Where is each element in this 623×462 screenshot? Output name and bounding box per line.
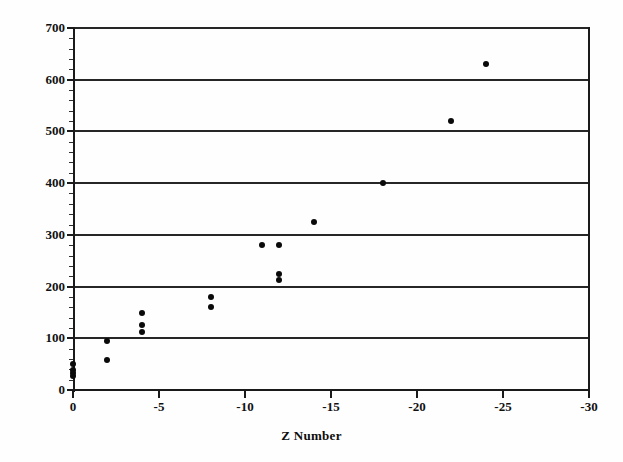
scatter-plot-figure: 0100200300400500600700 0-5-10-15-20-25-3… [0,0,623,462]
x-tick--15 [330,391,332,398]
x-axis-tick-label: -5 [139,400,179,413]
data-point [70,373,76,379]
x-tick--5 [158,391,160,398]
x-axis-tick-label: -15 [311,400,351,413]
data-point [104,357,110,363]
data-point [276,242,282,248]
data-point [311,219,317,225]
x-tick--30 [588,391,590,398]
y-axis-tick-label: 400 [21,176,65,189]
x-tick--20 [416,391,418,398]
x-axis-tick-label: -30 [569,400,609,413]
data-point [483,61,489,67]
data-point [276,277,282,283]
y-axis-tick-label: 600 [21,73,65,86]
data-point [208,304,214,310]
x-axis-tick-label: 0 [53,400,93,413]
x-axis-tick-label: -10 [225,400,265,413]
data-point [380,180,386,186]
y-axis-tick-label: 200 [21,280,65,293]
x-axis-title: Z Number [0,428,623,444]
x-tick-0 [72,391,74,398]
y-axis-tick-label: 0 [21,383,65,396]
data-point [208,294,214,300]
data-point [139,310,145,316]
x-tick--10 [244,391,246,398]
data-point [70,361,76,367]
y-axis-tick-label: 700 [21,21,65,34]
data-point [448,118,454,124]
data-point [139,329,145,335]
x-tick--25 [502,391,504,398]
data-point [104,338,110,344]
y-axis-tick-label: 100 [21,331,65,344]
data-point [139,322,145,328]
y-axis-tick-label: 300 [21,228,65,241]
y-axis-tick-label: 500 [21,124,65,137]
x-axis-tick-label: -20 [397,400,437,413]
data-point [276,271,282,277]
plot-area [73,28,589,390]
data-point [259,242,265,248]
x-axis-tick-label: -25 [483,400,523,413]
